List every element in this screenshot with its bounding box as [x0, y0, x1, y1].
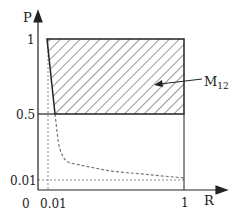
region-label-main: M: [204, 74, 217, 89]
region-diagram: P 1 0.5 0.01 0 0.01 1 R M12: [0, 0, 237, 216]
y-tick-1: 1: [27, 33, 35, 47]
x-tick-0.01: 0.01: [40, 197, 67, 211]
y-axis-arrow-icon: [34, 11, 42, 22]
x-axis-label: R: [204, 193, 215, 208]
origin-label: 0: [22, 197, 30, 211]
boundary-curve: [55, 114, 184, 178]
y-axis-label: P: [23, 10, 32, 25]
region-m12: [47, 39, 184, 114]
region-label-sub: 12: [217, 81, 228, 91]
x-tick-1: 1: [181, 196, 189, 210]
region-label: M12: [204, 74, 229, 91]
x-axis-arrow-icon: [216, 186, 227, 194]
y-tick-0.01: 0.01: [10, 174, 37, 188]
y-tick-0.5: 0.5: [16, 108, 35, 122]
